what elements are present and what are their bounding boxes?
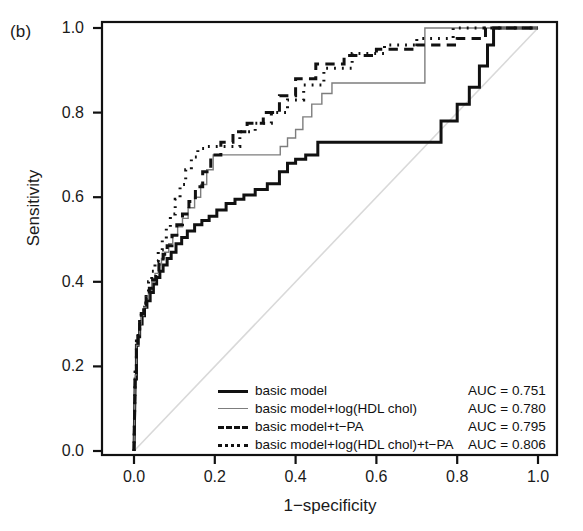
legend-series-label: basic model+log(HDL chol) <box>255 401 460 416</box>
chart-legend: basic modelAUC = 0.751basic model+log(HD… <box>218 381 554 453</box>
roc-figure: (b) Sensitivity 1−specificity 1.00.80.60… <box>0 0 583 531</box>
legend-row: basic model+log(HDL chol)+t−PAAUC = 0.80… <box>218 435 554 453</box>
legend-auc-value: AUC = 0.780 <box>468 401 554 416</box>
legend-line-key-solid-thin-icon <box>218 401 248 415</box>
legend-series-label: basic model <box>255 383 460 398</box>
legend-row: basic model+log(HDL chol)AUC = 0.780 <box>218 399 554 417</box>
legend-series-label: basic model+log(HDL chol)+t−PA <box>255 437 460 452</box>
legend-line-key-dotted-icon <box>218 437 248 451</box>
legend-auc-value: AUC = 0.806 <box>468 437 554 452</box>
legend-line-key-solid-thick-icon <box>218 383 248 397</box>
legend-auc-value: AUC = 0.795 <box>468 419 554 434</box>
legend-auc-value: AUC = 0.751 <box>468 383 554 398</box>
legend-row: basic modelAUC = 0.751 <box>218 381 554 399</box>
legend-line-key-dashed-icon <box>218 419 248 433</box>
legend-series-label: basic model+t−PA <box>255 419 460 434</box>
legend-row: basic model+t−PAAUC = 0.795 <box>218 417 554 435</box>
